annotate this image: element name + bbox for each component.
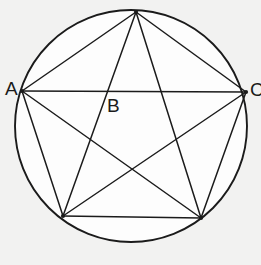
left-vertex — [20, 89, 24, 93]
figure-canvas — [0, 0, 261, 265]
circle-interior — [15, 10, 247, 242]
vertex-label-a: A — [5, 79, 18, 98]
point-label-b: B — [107, 96, 120, 115]
bottom-left-vertex — [61, 214, 65, 218]
bottom-right-vertex — [199, 216, 203, 220]
vertex-label-c: C — [250, 80, 261, 99]
geometry-figure: A B C — [0, 0, 261, 265]
right-vertex — [244, 90, 248, 94]
top-vertex — [134, 10, 138, 14]
edge-left-right — [22, 91, 246, 92]
